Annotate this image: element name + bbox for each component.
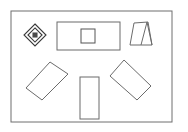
slanted-quadrilateral-outline [130, 22, 152, 45]
nested-diamond [24, 24, 46, 46]
diagram-canvas [0, 0, 188, 132]
rotated-rectangle-right [110, 60, 151, 100]
inner-square [81, 29, 95, 43]
quadrilateral-diagonal-divider [147, 22, 152, 45]
vertical-rectangle-center [80, 77, 99, 119]
slanted-quadrilateral [130, 22, 152, 45]
diagram-svg [0, 0, 188, 132]
nested-diamond-center-dot [32, 32, 37, 37]
rotated-rectangle-left [26, 62, 68, 100]
wide-rectangle-with-inner-square [57, 22, 120, 50]
quadrilateral-diagonal-edge [141, 22, 147, 45]
